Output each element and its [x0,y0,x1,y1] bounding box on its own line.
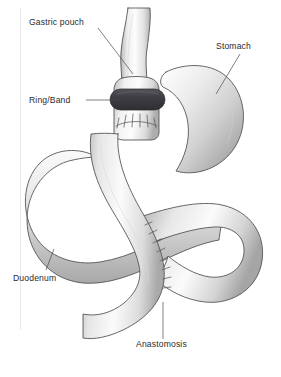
label-ring-band: Ring/Band [29,95,120,105]
label-gastric-pouch: Gastric pouch [29,17,133,74]
esophagus-tube [121,8,151,86]
label-text-stomach: Stomach [216,41,251,51]
stomach-remnant [161,66,244,173]
restrictive-ring-band [110,89,165,110]
label-text-anastomosis: Anastomosis [136,339,187,349]
label-text-gastric-pouch: Gastric pouch [29,17,84,27]
anatomy-illustration: Gastric pouch Stomach Ring/Band Duodenum… [0,0,281,377]
anatomy-figure: Gastric pouch Stomach Ring/Band Duodenum… [0,0,281,377]
label-text-duodenum: Duodenum [13,273,56,283]
roux-limb [83,133,164,338]
label-text-ring-band: Ring/Band [29,95,71,105]
